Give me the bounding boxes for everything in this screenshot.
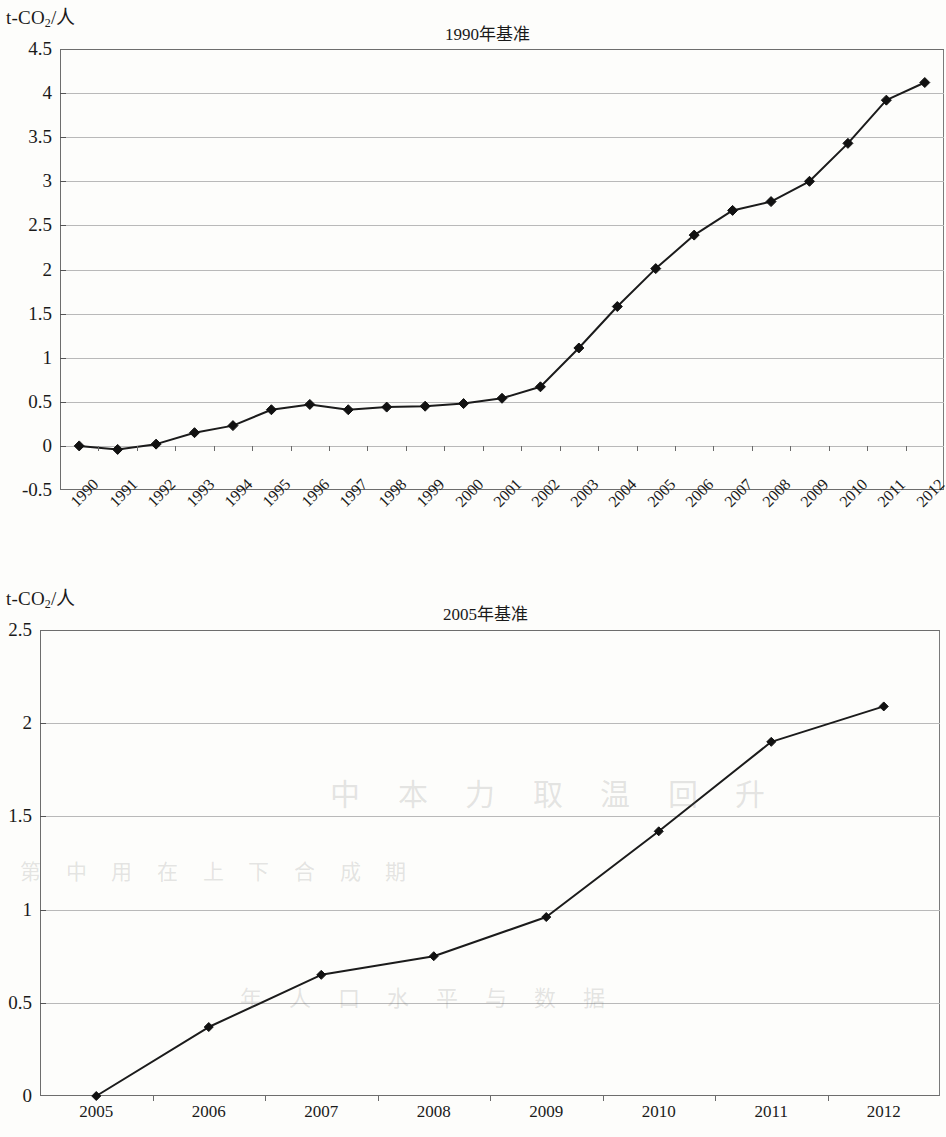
x-tick-mark: [521, 446, 522, 451]
gridline: [60, 270, 944, 271]
x-tick-mark: [265, 1096, 266, 1101]
y-tick-label: 2.5: [0, 214, 52, 236]
x-tick-mark: [444, 446, 445, 451]
y-tick-mark: [40, 1003, 46, 1004]
y-tick-label: 1: [0, 899, 32, 921]
chart-2-y-unit-label: t-CO2/人: [6, 583, 76, 612]
gridline: [40, 723, 940, 724]
y-tick-mark: [60, 137, 66, 138]
x-tick-label: 2009: [529, 1102, 563, 1122]
x-tick-mark: [367, 446, 368, 451]
x-tick-mark: [490, 1096, 491, 1101]
bleed-through-text: 第 中 用 在 上 下 合 成 期: [20, 855, 415, 885]
chart-1-y-unit-label: t-CO2/人: [6, 2, 76, 31]
y-tick-mark: [60, 446, 66, 447]
gridline: [60, 314, 944, 315]
y-tick-mark: [40, 723, 46, 724]
y-tick-label: 0: [0, 1085, 32, 1107]
x-tick-mark: [329, 446, 330, 451]
y-tick-mark: [40, 910, 46, 911]
x-tick-mark: [790, 446, 791, 451]
x-tick-mark: [603, 1096, 604, 1101]
gridline: [60, 358, 944, 359]
gridline: [40, 816, 940, 817]
x-tick-mark: [214, 446, 215, 451]
bleed-through-text: 中 本 力 取 温 回 升: [330, 770, 779, 814]
x-tick-mark: [175, 446, 176, 451]
y-tick-label: 1.5: [0, 805, 32, 827]
y-tick-label: 2.5: [0, 619, 32, 641]
y-tick-label: 0.5: [0, 992, 32, 1014]
y-tick-mark: [60, 225, 66, 226]
x-tick-mark: [637, 446, 638, 451]
y-tick-label: 2: [0, 712, 32, 734]
x-tick-label: 2007: [304, 1102, 338, 1122]
x-tick-mark: [560, 446, 561, 451]
x-tick-mark: [378, 1096, 379, 1101]
y-tick-label: 0.5: [0, 391, 52, 413]
y-tick-label: 3.5: [0, 126, 52, 148]
gridline: [60, 181, 944, 182]
y-tick-mark: [60, 270, 66, 271]
x-tick-mark: [713, 446, 714, 451]
y-tick-label: 3: [0, 170, 52, 192]
x-tick-mark: [98, 446, 99, 451]
x-tick-label: 2012: [867, 1102, 901, 1122]
x-tick-mark: [828, 1096, 829, 1101]
x-tick-mark: [598, 446, 599, 451]
y-tick-mark: [60, 402, 66, 403]
x-tick-label: 2010: [642, 1102, 676, 1122]
chart-1-plot-area: [60, 49, 944, 490]
x-tick-mark: [829, 446, 830, 451]
x-tick-mark: [406, 446, 407, 451]
gridline: [40, 910, 940, 911]
y-tick-label: 1.5: [0, 303, 52, 325]
y-tick-label: 4: [0, 82, 52, 104]
y-tick-mark: [40, 816, 46, 817]
x-tick-mark: [483, 446, 484, 451]
y-tick-label: 4.5: [0, 38, 52, 60]
y-tick-mark: [60, 93, 66, 94]
x-tick-label: 2008: [417, 1102, 451, 1122]
x-tick-mark: [137, 446, 138, 451]
gridline: [60, 402, 944, 403]
y-tick-mark: [60, 181, 66, 182]
y-tick-label: -0.5: [0, 479, 52, 501]
gridline: [60, 93, 944, 94]
gridline: [60, 137, 944, 138]
x-tick-label: 2011: [755, 1102, 788, 1122]
x-tick-label: 2006: [192, 1102, 226, 1122]
x-tick-mark: [867, 446, 868, 451]
gridline: [60, 446, 944, 447]
gridline: [60, 225, 944, 226]
y-tick-label: 0: [0, 435, 52, 457]
y-tick-label: 1: [0, 347, 52, 369]
x-tick-label: 2005: [79, 1102, 113, 1122]
y-tick-mark: [60, 314, 66, 315]
bleed-through-text: 年 人 口 水 平 与 数 据: [240, 980, 615, 1012]
x-tick-mark: [291, 446, 292, 451]
x-tick-mark: [752, 446, 753, 451]
x-tick-mark: [715, 1096, 716, 1101]
x-tick-mark: [153, 1096, 154, 1101]
chart-1-title: 1990年基准: [445, 20, 530, 45]
x-tick-mark: [252, 446, 253, 451]
y-tick-label: 2: [0, 259, 52, 281]
x-tick-mark: [906, 446, 907, 451]
chart-2-title: 2005年基准: [443, 600, 528, 625]
y-tick-mark: [60, 358, 66, 359]
x-tick-mark: [675, 446, 676, 451]
